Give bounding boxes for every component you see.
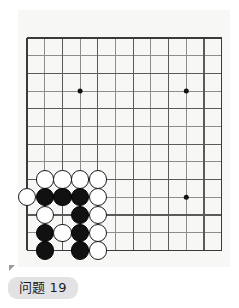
corner-fold-marker xyxy=(9,265,15,271)
black-stone[interactable] xyxy=(36,241,54,259)
caption-area: 问题19 xyxy=(8,277,78,299)
white-stone[interactable] xyxy=(89,170,107,188)
star-point xyxy=(78,89,83,94)
go-board-panel[interactable] xyxy=(18,10,230,267)
white-stone[interactable] xyxy=(53,224,71,242)
problem-caption-badge: 问题19 xyxy=(8,277,78,299)
white-stone[interactable] xyxy=(89,224,107,242)
star-point xyxy=(184,89,189,94)
white-stone[interactable] xyxy=(89,206,107,224)
white-stone[interactable] xyxy=(53,170,71,188)
white-stone[interactable] xyxy=(36,170,54,188)
black-stone[interactable] xyxy=(71,241,89,259)
caption-label: 问题 xyxy=(19,280,46,295)
black-stone[interactable] xyxy=(53,188,71,206)
star-point xyxy=(184,195,189,200)
white-stone[interactable] xyxy=(89,241,107,259)
white-stone[interactable] xyxy=(71,170,89,188)
go-problem-page: 问题19 xyxy=(0,0,239,308)
black-stone[interactable] xyxy=(71,224,89,242)
caption-number: 19 xyxy=(50,280,67,295)
black-stone[interactable] xyxy=(36,224,54,242)
white-stone[interactable] xyxy=(36,206,54,224)
